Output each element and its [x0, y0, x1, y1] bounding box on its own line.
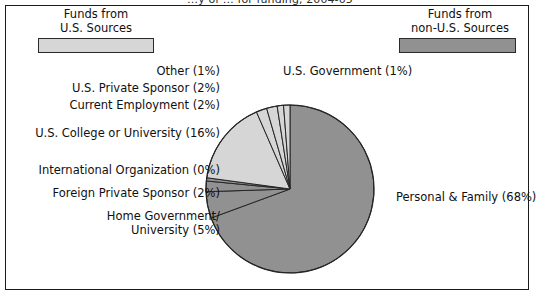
- slice-label-us-private-sponsor: U.S. Private Sponsor (2%): [38, 81, 220, 95]
- pie-chart-figure: …y of … for funding, 2004-05 Funds from …: [0, 0, 540, 296]
- slice-label-personal-family: Personal & Family (68%): [396, 190, 538, 204]
- slice-label-us-college-or-university: U.S. College or University (16%): [2, 126, 220, 140]
- slice-label-home-government-line1: Home Government/: [107, 209, 220, 223]
- slice-label-other: Other (1%): [100, 64, 220, 78]
- slice-label-foreign-private-sponsor: Foreign Private Sponsor (2%): [2, 186, 220, 200]
- slice-label-home-government-line2: University (5%): [131, 223, 220, 237]
- pie-slice-group: [206, 105, 374, 273]
- pie-graphic: [0, 0, 540, 296]
- slice-label-us-government: U.S. Government (1%): [283, 64, 433, 78]
- slice-label-home-government-university: Home Government/ University (5%): [2, 209, 220, 237]
- slice-label-international-organization: International Organization (0%): [2, 163, 220, 177]
- slice-label-current-employment: Current Employment (2%): [26, 98, 220, 112]
